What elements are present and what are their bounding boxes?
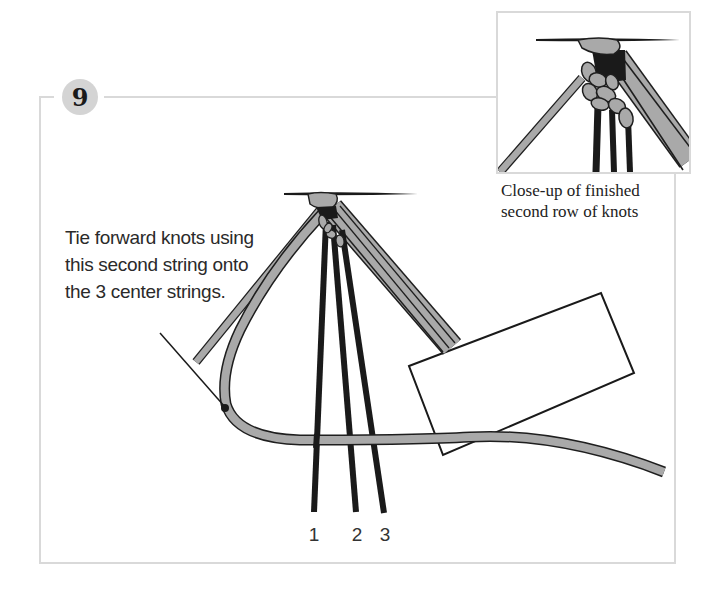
step-number: 9: [72, 83, 89, 112]
callout-line-1: Tie forward knots using: [65, 227, 254, 248]
string-label-1: 1: [309, 524, 320, 545]
closeup-caption: Close-up of finished second row of knots: [501, 181, 644, 221]
step-9-illustration: 9: [0, 0, 722, 592]
string-label-2: 2: [352, 524, 363, 545]
center-string-2: [333, 225, 356, 512]
closeup-caption-line-2: second row of knots: [501, 202, 638, 221]
callout-pointer-dot: [221, 404, 229, 412]
closeup-inset: Close-up of finished second row of knots: [497, 12, 692, 221]
instruction-callout: Tie forward knots using this second stri…: [65, 227, 259, 302]
larks-head-knot: [308, 193, 337, 209]
step-number-badge: 9: [62, 79, 98, 115]
string-labels: 1 2 3: [309, 524, 391, 545]
callout-line-3: the 3 center strings.: [65, 281, 226, 302]
callout-line-2: this second string onto: [65, 254, 248, 275]
string-label-3: 3: [380, 524, 391, 545]
right-cord-bundle: [326, 206, 455, 352]
mounting-bar: [284, 192, 418, 195]
work-board: [409, 293, 634, 455]
closeup-caption-line-1: Close-up of finished: [501, 181, 640, 200]
center-string-1: [314, 222, 326, 512]
